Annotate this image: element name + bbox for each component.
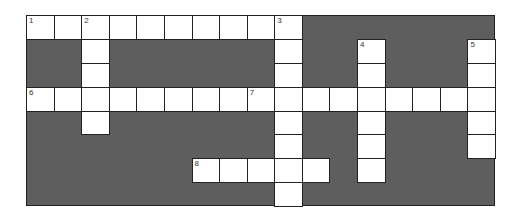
crossword-cell[interactable] [467, 87, 496, 112]
crossword-cell[interactable] [219, 15, 248, 40]
clue-number: 3 [277, 17, 281, 25]
clue-number: 4 [360, 41, 364, 49]
crossword-cell[interactable] [385, 87, 414, 112]
crossword-cell[interactable] [357, 158, 386, 183]
crossword-cell[interactable] [54, 87, 83, 112]
crossword-cell[interactable]: 7 [247, 87, 276, 112]
crossword-cell[interactable] [467, 134, 496, 159]
crossword-cell[interactable] [329, 87, 358, 112]
crossword-cell[interactable] [357, 111, 386, 136]
crossword-cell[interactable] [219, 158, 248, 183]
crossword-cell[interactable] [192, 15, 221, 40]
crossword-cell[interactable] [81, 39, 110, 64]
clue-number: 7 [250, 89, 254, 97]
crossword-cell[interactable] [81, 87, 110, 112]
crossword-cell[interactable] [357, 87, 386, 112]
crossword-cell[interactable] [81, 63, 110, 88]
crossword-cell[interactable] [136, 87, 165, 112]
crossword-cell[interactable] [357, 63, 386, 88]
crossword-cell[interactable]: 5 [467, 39, 496, 64]
crossword-cell[interactable] [440, 87, 469, 112]
crossword-cell[interactable] [357, 134, 386, 159]
crossword-cell[interactable]: 8 [192, 158, 221, 183]
crossword-cell[interactable] [54, 15, 83, 40]
crossword-cell[interactable] [274, 111, 303, 136]
crossword-cell[interactable] [467, 111, 496, 136]
crossword-cell[interactable] [192, 87, 221, 112]
crossword-cell[interactable] [467, 63, 496, 88]
crossword-cell[interactable] [164, 87, 193, 112]
crossword-cell[interactable]: 3 [274, 15, 303, 40]
crossword-cell[interactable]: 1 [26, 15, 55, 40]
clue-number: 1 [29, 17, 33, 25]
crossword-cell[interactable] [274, 39, 303, 64]
crossword-cell[interactable]: 2 [81, 15, 110, 40]
crossword-cell[interactable] [274, 158, 303, 183]
crossword-cell[interactable] [302, 87, 331, 112]
crossword-cell[interactable] [274, 182, 303, 207]
crossword-cell[interactable]: 6 [26, 87, 55, 112]
clue-number: 6 [29, 89, 33, 97]
crossword-grid: 12345678 [26, 15, 495, 206]
crossword-cell[interactable]: 4 [357, 39, 386, 64]
clue-number: 5 [470, 41, 474, 49]
crossword-cell[interactable] [302, 158, 331, 183]
crossword-cell[interactable] [164, 15, 193, 40]
crossword-cell[interactable] [274, 87, 303, 112]
crossword-cell[interactable] [412, 87, 441, 112]
clue-number: 8 [195, 160, 199, 168]
crossword-cell[interactable] [274, 134, 303, 159]
crossword-cell[interactable] [136, 15, 165, 40]
crossword-cell[interactable] [109, 15, 138, 40]
crossword-cell[interactable] [247, 158, 276, 183]
crossword-cell[interactable] [247, 15, 276, 40]
crossword-cell[interactable] [219, 87, 248, 112]
crossword-cell[interactable] [274, 63, 303, 88]
clue-number: 2 [84, 17, 88, 25]
crossword-cell[interactable] [81, 111, 110, 136]
crossword-cell[interactable] [109, 87, 138, 112]
